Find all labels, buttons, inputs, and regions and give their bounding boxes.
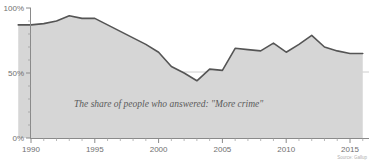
y-tick-label: 0% xyxy=(12,134,24,143)
x-tick-label: 2010 xyxy=(277,145,295,154)
chart-annotation: The share of people who answered: "More … xyxy=(74,99,264,109)
x-tick-label: 1995 xyxy=(86,145,104,154)
y-tick-label: 50% xyxy=(8,69,24,78)
x-tick-label: 2000 xyxy=(150,145,168,154)
crime-perception-area-chart: 100%50%0% 199019952000200520102015 The s… xyxy=(0,0,369,162)
chart-canvas: 100%50%0% 199019952000200520102015 The s… xyxy=(0,0,369,162)
x-tick-label: 1990 xyxy=(22,145,40,154)
x-tick-label: 2015 xyxy=(341,145,359,154)
y-tick-label: 100% xyxy=(4,4,24,13)
x-tick-label: 2005 xyxy=(214,145,232,154)
chart-source-note: Source: Gallup xyxy=(337,155,367,160)
